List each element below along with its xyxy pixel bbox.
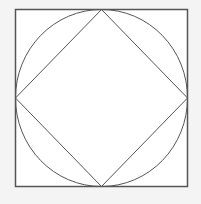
diagram-canvas [0,0,201,204]
geometry-figure [0,0,201,204]
outer-square [16,10,188,187]
